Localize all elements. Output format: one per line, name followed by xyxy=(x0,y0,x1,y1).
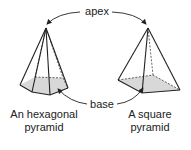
hexagonal-pyramid xyxy=(20,28,68,95)
hexagonal-pyramid-caption: An hexagonal pyramid xyxy=(2,108,86,134)
apex-label: apex xyxy=(82,5,112,18)
apex-arrow-right xyxy=(112,12,146,24)
sq-caption-line1: A square xyxy=(120,108,180,121)
base-label: base xyxy=(88,98,116,111)
base-arrow-left xyxy=(58,89,87,104)
hex-caption-line2: pyramid xyxy=(2,121,86,134)
square-pyramid-caption: A square pyramid xyxy=(120,108,180,134)
hex-caption-line1: An hexagonal xyxy=(2,108,86,121)
sq-caption-line2: pyramid xyxy=(120,121,180,134)
square-pyramid xyxy=(118,28,180,93)
apex-arrow-left xyxy=(47,12,80,24)
